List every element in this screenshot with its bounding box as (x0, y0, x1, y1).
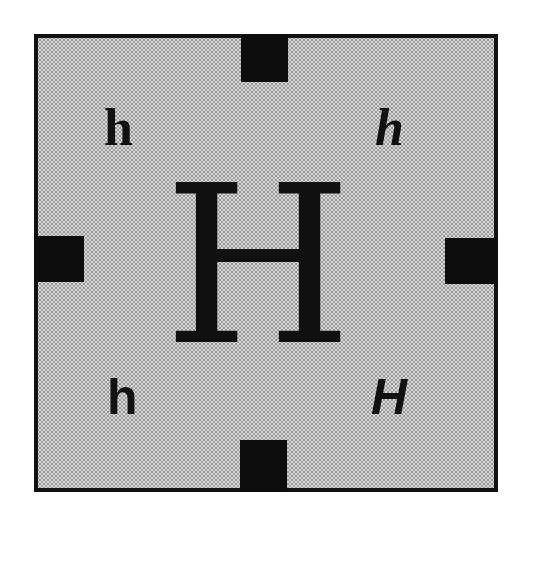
corner-letter-bottom-left: h (107, 372, 138, 422)
corner-letter-bottom-right: H (371, 372, 407, 422)
top-tab-marker (241, 34, 288, 82)
left-tab-marker (34, 236, 84, 282)
corner-letter-top-right: h (375, 102, 404, 154)
center-letter: H (164, 156, 352, 376)
bottom-tab-marker (240, 440, 287, 492)
right-tab-marker (445, 238, 498, 284)
stippled-frame: H h h h H (34, 34, 498, 492)
corner-letter-top-left: h (104, 102, 133, 154)
